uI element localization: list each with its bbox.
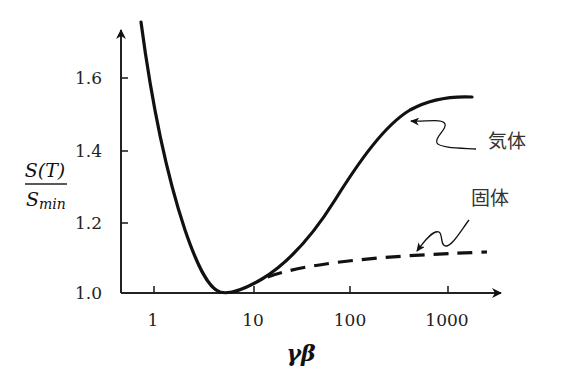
x-axis: 1 10 100 1000 γβ (121, 286, 501, 366)
y-label-numerator: S(T) (25, 159, 66, 181)
gas-curve (141, 22, 472, 293)
gas-label: 気体 (488, 130, 526, 152)
solid-curve (262, 252, 487, 279)
x-axis-label: γβ (286, 340, 316, 366)
x-tick-label: 10 (242, 310, 264, 330)
y-label-denominator: Smin (26, 188, 66, 212)
y-tick-label: 1.4 (75, 141, 102, 161)
entropy-ratio-chart: 1.6 1.4 1.2 1.0 S(T) Smin 1 10 100 1000 … (0, 0, 561, 383)
x-tick-label: 1 (148, 310, 159, 330)
solid-annotation: 固体 (417, 187, 509, 251)
y-tick-label: 1.2 (75, 213, 102, 233)
x-tick-label: 100 (334, 310, 366, 330)
y-axis: 1.6 1.4 1.2 1.0 (75, 30, 128, 303)
wavy-arrow-icon (417, 220, 469, 251)
x-tick-label: 1000 (425, 310, 468, 330)
wavy-arrow-icon (411, 121, 476, 149)
y-axis-label: S(T) Smin (25, 159, 67, 212)
y-tick-label: 1.0 (75, 283, 102, 303)
gas-annotation: 気体 (411, 121, 526, 152)
y-tick-label: 1.6 (75, 68, 102, 88)
solid-label: 固体 (471, 187, 509, 209)
